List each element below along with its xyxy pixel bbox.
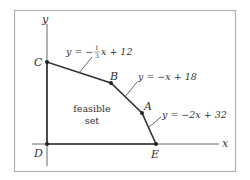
feasible-set-diagram: y x C B A D E feasible set y = − 1 3 x +… [0, 0, 250, 180]
equation-2-label: y = −x + 18 [137, 71, 197, 82]
vertex-a-label: A [143, 100, 152, 113]
x-axis-label: x [222, 137, 229, 150]
vertex-b-label: B [109, 70, 118, 83]
eq1-frac-den: 3 [95, 52, 99, 59]
vertex-e-label: E [150, 148, 159, 161]
feasible-label-line1: feasible [73, 103, 111, 114]
vertex-e-dot [154, 142, 158, 146]
diagram-canvas: y x C B A D E feasible set y = − 1 3 x +… [0, 0, 250, 180]
equation-3-label: y = −2x + 32 [161, 109, 227, 120]
eq1-frac-num: 1 [95, 44, 99, 51]
equation-1-label: y = − 1 3 x + 12 [65, 44, 132, 59]
vertex-d-dot [45, 142, 49, 146]
svg-text:y = −: y = − [65, 46, 93, 57]
eq1-prefix: y = − [65, 46, 93, 57]
eq1-suffix: x + 12 [101, 46, 132, 57]
y-axis-label: y [41, 13, 49, 26]
vertex-c-dot [45, 60, 49, 64]
feasible-label-line2: set [85, 115, 99, 126]
vertex-c-label: C [34, 56, 43, 69]
vertex-d-label: D [33, 147, 43, 160]
